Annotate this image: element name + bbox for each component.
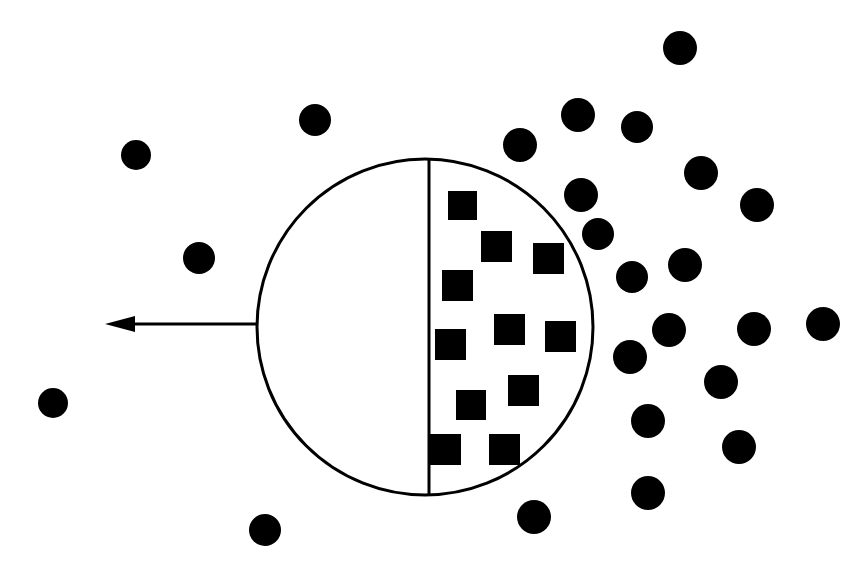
square-particle: [435, 329, 466, 360]
circle-particle: [704, 365, 738, 399]
circle-particle: [737, 312, 771, 346]
circle-particle: [652, 313, 686, 347]
square-particle: [545, 321, 576, 352]
diagram-svg: [0, 0, 867, 571]
circle-particle: [299, 104, 331, 136]
circle-particle: [38, 388, 68, 418]
square-particle: [442, 270, 473, 301]
square-particle: [489, 434, 520, 465]
circle-particle: [621, 111, 653, 143]
square-particle: [508, 375, 539, 406]
circle-particle: [561, 98, 595, 132]
circle-particle: [616, 261, 648, 293]
circle-particle: [613, 340, 647, 374]
circle-particle: [517, 500, 551, 534]
circle-particle: [631, 476, 665, 510]
square-particle: [456, 390, 486, 420]
square-particle: [533, 243, 564, 274]
circle-particle: [668, 248, 702, 282]
circle-particle: [663, 31, 697, 65]
circle-particle: [249, 514, 281, 546]
figure-canvas: [0, 0, 867, 571]
circle-particle: [582, 218, 614, 250]
circle-particle: [121, 140, 151, 170]
circle-particle: [684, 156, 718, 190]
square-particle: [448, 191, 477, 220]
circle-particle: [806, 307, 840, 341]
background: [0, 0, 867, 571]
square-particle: [430, 434, 461, 465]
circle-particle: [503, 128, 537, 162]
circle-particle: [722, 430, 756, 464]
square-particle: [494, 314, 525, 345]
square-particle: [481, 231, 512, 262]
circle-particle: [183, 242, 215, 274]
circle-particle: [631, 404, 665, 438]
circle-particle: [740, 188, 774, 222]
circle-particle: [564, 178, 598, 212]
